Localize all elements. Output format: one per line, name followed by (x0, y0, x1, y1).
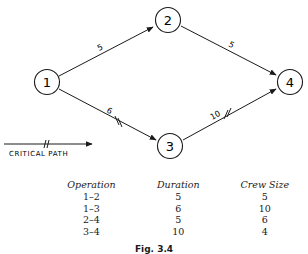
table-header-row: Operation Duration Crew Size (48, 178, 308, 191)
edge-1-2: 5 (59, 27, 153, 76)
node-4-label: 4 (286, 75, 294, 90)
edge-2-4-duration: 5 (227, 40, 236, 50)
cell-duration: 5 (135, 214, 222, 226)
edge-1-2-duration: 5 (96, 42, 105, 52)
operations-table: Operation Duration Crew Size 1–2 5 5 1–3… (48, 178, 308, 237)
edge-3-4-critical: 10 (183, 89, 276, 140)
header-duration: Duration (135, 178, 222, 191)
cell-operation: 3–4 (48, 226, 135, 238)
table-row: 1–3 6 10 (48, 203, 308, 215)
cell-operation: 1–2 (48, 191, 135, 203)
table-row: 3–4 10 4 (48, 226, 308, 238)
legend-label: CRITICAL PATH (9, 150, 68, 158)
table-row: 1–2 5 5 (48, 191, 308, 203)
node-2-label: 2 (164, 13, 172, 28)
node-3-label: 3 (166, 139, 174, 154)
node-3: 3 (158, 134, 183, 159)
cell-operation: 1–3 (48, 203, 135, 215)
header-crew-size: Crew Size (222, 178, 308, 191)
cell-operation: 2–4 (48, 214, 135, 226)
node-1: 1 (35, 70, 60, 95)
edge-1-3-duration: 6 (105, 106, 114, 116)
node-2: 2 (156, 8, 181, 33)
legend-critical-path: CRITICAL PATH (4, 140, 92, 158)
edge-1-3-critical: 6 (59, 89, 156, 140)
cell-duration: 5 (135, 191, 222, 203)
cell-crew-size: 4 (222, 226, 308, 238)
cell-duration: 6 (135, 203, 222, 215)
cell-crew-size: 5 (222, 191, 308, 203)
cell-duration: 10 (135, 226, 222, 238)
cell-crew-size: 6 (222, 214, 308, 226)
edge-2-4: 5 (181, 26, 276, 75)
critical-path-mark-icon (224, 108, 231, 119)
figure-caption: Fig. 3.4 (0, 244, 308, 254)
table-row: 2–4 5 6 (48, 214, 308, 226)
node-4: 4 (278, 70, 303, 95)
node-1-label: 1 (43, 75, 51, 90)
cell-crew-size: 10 (222, 203, 308, 215)
header-operation: Operation (48, 178, 135, 191)
